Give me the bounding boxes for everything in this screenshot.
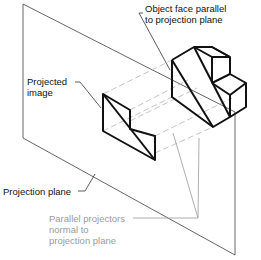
object-face-label-line-2: to projection plane [145,14,226,25]
projected-image-label-line-1: Projected [27,76,67,87]
projection-plane-label-text: Projection plane [3,186,71,197]
projected-image-label: Projected image [27,76,67,98]
parallel-projectors-label-line-2: normal to [49,224,125,235]
parallel-projectors-label: Parallel projectors normal to projection… [49,213,125,246]
projection-plane-label: Projection plane [3,186,71,197]
projection-diagram [0,0,261,260]
parallel-projectors-label-line-3: projection plane [49,235,125,246]
leader-lines [75,13,170,191]
stepped-object [172,47,246,127]
projected-image [103,94,155,160]
object-face-label: Object face parallel to projection plane [145,3,226,25]
parallel-projectors-label-line-1: Parallel projectors [49,213,125,224]
object-face-label-line-1: Object face parallel [145,3,226,14]
projected-image-label-line-2: image [27,87,67,98]
